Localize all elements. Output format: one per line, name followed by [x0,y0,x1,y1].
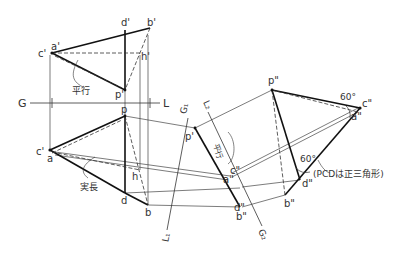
elevation-labels: c' a' d' b' h' p' [38,17,156,100]
label-L: L [163,97,170,110]
equilateral-note: (PCDは正三角形) [313,168,384,179]
label-L2: L₂ [201,99,214,111]
label-G: G [18,97,27,110]
parallel-annotation-1: 平行 [72,85,90,96]
ground-line [30,98,160,108]
svg-text:a: a [47,153,53,164]
svg-text:p: p [121,104,127,115]
projection-drawing: G L G₁ L₁ L₂ G₂ [0,0,409,253]
svg-text:d": d" [302,178,313,189]
svg-text:h: h [132,171,138,182]
label-G1: G₁ [178,102,190,115]
angle-label-2: 60° [300,154,316,164]
svg-text:h': h' [141,51,150,62]
svg-text:p': p' [115,89,124,100]
aux2-triangle [272,90,360,195]
parallel-leader-2 [228,132,234,164]
plan-triangle [50,116,148,205]
aux2-labels: p" c" a" d" b" [268,75,372,209]
svg-text:b: b [145,207,151,218]
angle-label-1: 60° [340,92,356,102]
svg-text:b": b" [236,211,247,222]
svg-text:c": c" [230,165,240,176]
svg-text:a': a' [51,41,60,52]
svg-text:c": c" [362,98,372,109]
svg-text:b': b' [147,17,156,28]
svg-text:c': c' [36,146,44,157]
elevation-triangle [52,28,150,90]
svg-text:c': c' [38,48,46,59]
svg-text:p': p' [185,131,194,142]
elevation-hidden [52,28,150,90]
svg-text:d': d' [121,17,130,28]
label-G2: G₂ [256,228,270,242]
svg-text:a": a" [351,111,362,122]
svg-text:p": p" [268,75,279,86]
label-L1: L₁ [160,232,171,243]
svg-text:b": b" [284,198,295,209]
plan-labels: p c' a h d b [36,104,151,218]
plan-hidden [52,116,148,205]
svg-text:d: d [121,195,127,206]
true-length-annotation: 実長 [80,181,98,192]
diagram-canvas: G L G₁ L₁ L₂ G₂ [0,0,409,253]
